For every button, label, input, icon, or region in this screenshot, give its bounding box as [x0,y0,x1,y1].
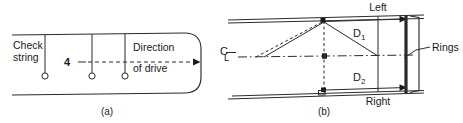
check-string-label-line1: Check [13,39,44,51]
direction-label-line2: of drive [133,62,168,74]
direction-label-line1: Direction [133,41,175,53]
technical-figure: Check string 4 Direction of drive (a) C … [0,0,463,123]
rings-label: Rings [432,41,459,53]
d1-subscript: 1 [361,33,366,42]
marker-number-label: 4 [64,56,71,68]
d2-label: D [353,71,361,83]
panel-a-caption: (a) [101,106,113,117]
check-string-label-line2: string [13,51,39,63]
panel-b-caption: (b) [318,106,330,117]
d2-subscript: 2 [361,77,366,86]
figure-text-layer: Check string 4 Direction of drive (a) C … [0,0,463,123]
d1-label: D [353,27,361,39]
left-label: Left [369,1,387,13]
right-label: Right [366,95,391,107]
centerline-symbol-l: L [224,52,229,63]
